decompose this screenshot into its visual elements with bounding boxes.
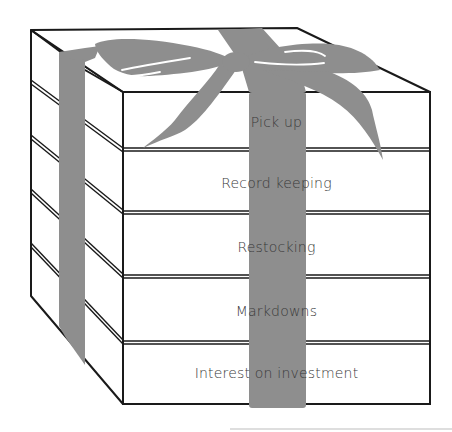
side-ribbon [59,52,85,365]
layer-label-restocking: Restocking [123,238,430,256]
bow-knot [222,52,250,72]
layer-label-record-keeping: Record keeping [123,174,430,192]
layer-label-markdowns: Markdowns [123,302,430,320]
layer-label-pick-up: Pick up [123,113,430,131]
layer-label-interest-on-investment: Interest on investment [123,364,430,382]
